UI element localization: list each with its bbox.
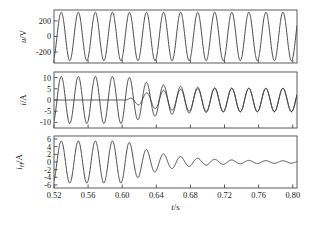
x-tick-label: 0.64 [149,191,164,200]
y-axis-title-panel-2: i/A [18,94,28,106]
y-tick-label: -200 [36,48,51,57]
y-axis-title-panel-1: u/V [18,29,28,43]
y-tick-label: -5 [44,107,51,116]
y-tick-label: 200 [39,17,51,26]
y-tick-label: -10 [40,118,51,127]
x-tick-label: 0.60 [115,191,130,200]
figure-container: 2000-200u/V 1050-5-10i/A 6420-2-4-6iH/A … [0,0,318,227]
y-tick-label: 0 [47,96,51,105]
x-tick-label: 0.80 [285,191,300,200]
x-tick-label: 0.72 [217,191,232,200]
x-tick-label: 0.52 [47,191,62,200]
y-tick-label: -6 [44,181,51,190]
x-axis-title: t/s [171,202,180,212]
x-tick-label: 0.56 [81,191,96,200]
x-tick-label: 0.76 [251,191,266,200]
three-panel-time-series-plot: 2000-200u/V 1050-5-10i/A 6420-2-4-6iH/A … [0,0,318,227]
x-tick-label: 0.68 [183,191,198,200]
x-axis-title-text: t/s [171,202,180,212]
y-tick-label: 10 [43,74,51,83]
y-tick-label: 0 [47,32,51,41]
y-tick-label: 5 [47,85,51,94]
